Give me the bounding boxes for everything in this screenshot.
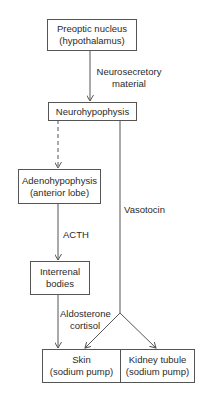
arrow-to-kidney	[120, 313, 156, 348]
node-kidney-tubule: Kidney tubule (sodium pump)	[120, 349, 195, 383]
node-sublabel: (anterior lobe)	[30, 187, 89, 199]
node-skin: Skin (sodium pump)	[42, 349, 121, 383]
node-label: Skin	[72, 354, 90, 366]
node-interrenal-bodies: Interrenal bodies	[30, 261, 90, 295]
node-sublabel: (sodium pump)	[50, 366, 113, 378]
node-label: Neurohypophysis	[56, 106, 129, 118]
edge-label-vasotocin: Vasotocin	[124, 204, 165, 216]
node-preoptic-nucleus: Preoptic nucleus (hypothalamus)	[47, 19, 137, 51]
node-sublabel: (sodium pump)	[126, 366, 189, 378]
node-label: Interrenal	[40, 266, 80, 278]
node-label: Preoptic nucleus	[57, 23, 127, 35]
edge-label-acth: ACTH	[63, 229, 89, 241]
edge-label-neurosecretory: Neurosecretory material	[93, 66, 165, 90]
node-label: Kidney tubule	[129, 354, 187, 366]
node-sublabel: bodies	[46, 278, 74, 290]
node-adenohypophysis: Adenohypophysis (anterior lobe)	[18, 169, 101, 204]
edge-label-aldosterone: Aldosterone cortisol	[60, 308, 110, 332]
node-neurohypophysis: Neurohypophysis	[48, 102, 137, 121]
node-label: Adenohypophysis	[22, 175, 97, 187]
node-sublabel: (hypothalamus)	[59, 35, 124, 47]
